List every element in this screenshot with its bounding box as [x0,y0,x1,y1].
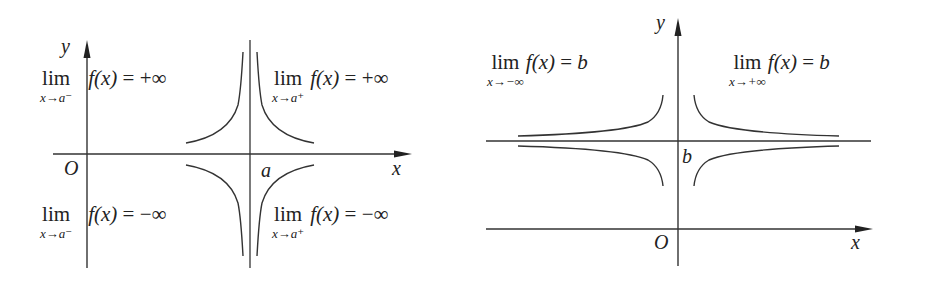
vertical-asymptote-diagram: y x O a lim x→a⁻ f(x) = +∞ lim x→a⁺ f(x)… [0,0,467,292]
curve-upper-left [186,52,243,143]
limit-value: b [819,50,830,74]
limit-value: +∞ [362,66,389,90]
lim-operator: lim [40,68,72,89]
limit-value: −∞ [362,202,389,226]
asymptote-point-label: a [261,160,271,180]
asymptote-value-label: b [682,146,692,166]
curve-lower-left [186,165,243,256]
relation: = [802,50,814,74]
lim-operator: lim [729,52,766,73]
x-axis-label: x [392,158,401,178]
lim-subscript: x→a⁻ [40,91,72,104]
horizontal-asymptote-diagram: y x O b lim x→−∞ f(x) = b lim x→+∞ f(x) … [467,0,934,292]
function-expr: f(x) [310,66,339,90]
limit-annotation-left: lim x→−∞ f(x) = b [487,52,588,88]
function-expr: f(x) [526,50,555,74]
relation: = [560,50,572,74]
function-expr: f(x) [310,202,339,226]
lim-subscript: x→a⁺ [272,227,304,240]
relation: = [123,66,135,90]
curve-lower-left [518,146,663,186]
y-axis-label: y [61,36,70,56]
limit-annotation-top-right: lim x→a⁺ f(x) = +∞ [272,68,388,104]
horizontal-asymptote-plot [467,0,934,292]
limit-value: −∞ [140,202,167,226]
curve-lower-right [694,146,839,186]
relation: = [345,202,357,226]
y-axis-label: y [656,12,665,32]
lim-operator: lim [272,68,304,89]
relation: = [123,202,135,226]
origin-label: O [64,158,78,178]
curve-upper-left [518,95,663,136]
y-axis-arrow-icon [84,40,91,58]
vertical-asymptote-plot [0,0,467,292]
lim-subscript: x→+∞ [729,75,766,88]
lim-operator: lim [40,204,72,225]
relation: = [345,66,357,90]
limit-value: b [577,50,588,74]
limit-annotation-bottom-right: lim x→a⁺ f(x) = −∞ [272,204,388,240]
function-expr: f(x) [768,50,797,74]
function-expr: f(x) [88,66,117,90]
limit-annotation-right: lim x→+∞ f(x) = b [729,52,830,88]
limit-value: +∞ [140,66,167,90]
lim-subscript: x→a⁻ [40,227,72,240]
lim-operator: lim [487,52,524,73]
y-axis-arrow-icon [675,18,682,36]
curve-upper-right [694,95,839,136]
lim-subscript: x→−∞ [487,75,524,88]
origin-label: O [654,232,668,252]
function-expr: f(x) [88,202,117,226]
x-axis-label: x [851,232,860,252]
lim-operator: lim [272,204,304,225]
limit-annotation-bottom-left: lim x→a⁻ f(x) = −∞ [40,204,166,240]
limit-annotation-top-left: lim x→a⁻ f(x) = +∞ [40,68,166,104]
lim-subscript: x→a⁺ [272,91,304,104]
